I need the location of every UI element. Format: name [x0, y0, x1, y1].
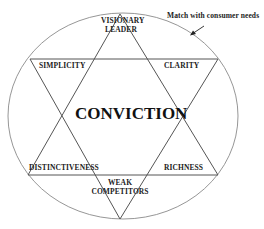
label-simplicity: SIMPLICITY	[39, 62, 85, 70]
label-bottom-2: COMPETITORS	[90, 188, 150, 196]
label-bottom-1: WEAK	[100, 179, 140, 187]
center-label-conviction: CONVICTION	[75, 105, 187, 122]
label-richness: RICHNESS	[164, 164, 203, 172]
label-clarity: CLARITY	[164, 62, 199, 70]
label-top-1: VISIONARY	[101, 17, 141, 25]
annotation-consumer-needs: Match with consumer needs	[167, 12, 259, 20]
label-top-2: LEADER	[101, 26, 141, 34]
upward-triangle	[28, 14, 218, 175]
label-distinctiveness: DISTINCTIVENESS	[29, 164, 99, 172]
